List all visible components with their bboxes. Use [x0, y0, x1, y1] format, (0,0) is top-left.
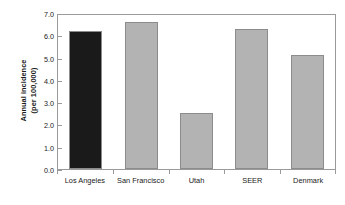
x-tick-mark: [335, 170, 336, 174]
x-axis-tick-marks: [57, 170, 336, 174]
x-tick-mark: [113, 170, 114, 174]
y-axis-tick-label: 1.0: [34, 143, 54, 152]
bar: [69, 31, 102, 169]
y-axis-tick-label: 6.0: [34, 32, 54, 41]
x-tick-mark: [224, 170, 225, 174]
x-axis-label: SEER: [224, 176, 280, 185]
y-axis-tick-label: 0.0: [34, 166, 54, 175]
bar-slot: [113, 15, 168, 169]
bar: [125, 22, 158, 169]
x-tick-mark: [280, 170, 281, 174]
bar: [235, 29, 268, 169]
x-tick-mark: [57, 170, 58, 174]
y-axis-tick-label: 7.0: [34, 10, 54, 19]
y-axis-tick-label: 4.0: [34, 76, 54, 85]
y-axis-tick-labels: 0.01.02.03.04.05.06.07.0: [34, 14, 54, 170]
bar: [180, 113, 213, 169]
bar-slot: [224, 15, 279, 169]
bars-layer: [58, 15, 335, 169]
x-axis-label: Los Angeles: [57, 176, 113, 185]
plot-area: [57, 14, 336, 170]
bar: [291, 55, 324, 169]
y-axis-title-line1: Annual incidence: [19, 59, 28, 121]
x-tick-mark: [169, 170, 170, 174]
y-axis-tick-label: 3.0: [34, 99, 54, 108]
x-axis-label: San Francisco: [113, 176, 169, 185]
bar-chart: Annual incidence (per 100,000) 0.01.02.0…: [0, 0, 345, 205]
bar-slot: [58, 15, 113, 169]
bar-slot: [169, 15, 224, 169]
y-axis-tick-label: 5.0: [34, 54, 54, 63]
x-axis-label: Denmark: [280, 176, 336, 185]
x-axis-label: Utah: [169, 176, 225, 185]
bar-slot: [280, 15, 335, 169]
y-axis-tick-label: 2.0: [34, 121, 54, 130]
x-axis-labels: Los AngelesSan FranciscoUtahSEERDenmark: [57, 176, 336, 185]
